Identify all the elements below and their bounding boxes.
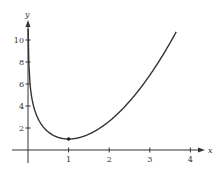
y-axis-arrow-icon — [26, 20, 31, 27]
y-tick-label: 10 — [14, 36, 24, 45]
y-axis-label: y — [24, 10, 30, 19]
x-tick-label: 4 — [188, 155, 193, 164]
line-chart: 1234 246810 x y — [0, 0, 218, 173]
data-curve — [28, 29, 176, 139]
minimum-point — [67, 137, 71, 141]
y-tick-label: 6 — [19, 80, 24, 89]
y-tick-label: 2 — [19, 124, 24, 133]
x-tick-label: 1 — [66, 155, 71, 164]
x-tick-label: 2 — [107, 155, 112, 164]
y-tick-label: 8 — [19, 58, 24, 67]
y-tick-label: 4 — [19, 102, 24, 111]
x-tick-label: 3 — [147, 155, 152, 164]
axes — [12, 20, 205, 163]
x-axis-label: x — [208, 146, 213, 155]
x-axis-arrow-icon — [198, 148, 205, 153]
